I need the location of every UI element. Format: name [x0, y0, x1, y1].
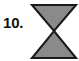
bottom-triangle [32, 31, 76, 58]
figure-container: 10. [0, 0, 79, 61]
top-triangle [32, 5, 76, 31]
hourglass-shape [30, 3, 78, 60]
hourglass-svg [30, 3, 78, 60]
item-number-label: 10. [3, 15, 23, 31]
